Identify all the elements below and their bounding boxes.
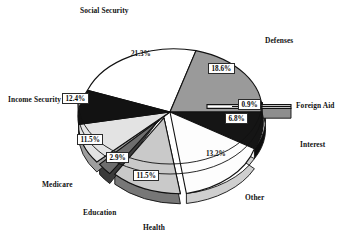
label-other: Other — [245, 193, 264, 202]
value-social-security: 21.3% — [131, 50, 151, 58]
pie-chart: Social Security Defenses Foreign Aid Int… — [0, 0, 349, 245]
value-foreign-aid: 0.9% — [238, 99, 261, 110]
label-social-security: Social Security — [80, 6, 129, 15]
label-foreign-aid: Foreign Aid — [296, 101, 335, 110]
value-interest: 6.8% — [225, 113, 248, 124]
value-other: 13.2% — [206, 150, 226, 158]
label-income-security: Income Security — [8, 95, 61, 104]
value-health: 11.5% — [133, 170, 159, 181]
label-defenses: Defenses — [265, 36, 293, 45]
value-defenses: 18.6% — [208, 63, 235, 74]
value-education: 2.9% — [106, 152, 129, 163]
label-health: Health — [143, 223, 165, 232]
value-income-security: 12.4% — [62, 93, 89, 104]
pie-top-faces — [78, 49, 291, 194]
label-education: Education — [83, 208, 116, 217]
label-medicare: Medicare — [42, 180, 73, 189]
label-interest: Interest — [300, 140, 325, 149]
pie-chart-canvas — [0, 0, 349, 245]
value-medicare: 11.5% — [77, 134, 103, 145]
